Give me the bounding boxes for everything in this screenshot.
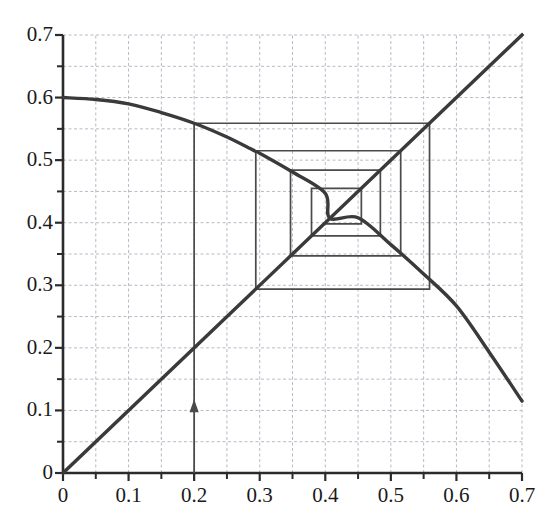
- x-tick-label: 0.2: [177, 485, 211, 506]
- x-tick-label: 0: [46, 485, 80, 506]
- y-tick-label: 0: [9, 462, 53, 483]
- x-tick-label: 0.5: [374, 485, 408, 506]
- start-arrow-icon: [190, 399, 199, 473]
- x-tick-label: 0.4: [308, 485, 342, 506]
- cobweb-path: [194, 123, 429, 410]
- y-tick-label: 0.4: [9, 212, 53, 233]
- y-tick-label: 0.3: [9, 274, 53, 295]
- cobweb-plot: [0, 0, 560, 531]
- x-tick-label: 0.1: [112, 485, 146, 506]
- y-tick-label: 0.6: [9, 87, 53, 108]
- x-tick-label: 0.6: [439, 485, 473, 506]
- y-tick-label: 0.7: [9, 24, 53, 45]
- x-tick-label: 0.7: [505, 485, 539, 506]
- y-tick-label: 0.1: [9, 399, 53, 420]
- cobweb-figure: 00.10.20.30.40.50.60.700.10.20.30.40.50.…: [0, 0, 560, 531]
- x-tick-label: 0.3: [243, 485, 277, 506]
- y-tick-label: 0.2: [9, 337, 53, 358]
- y-tick-label: 0.5: [9, 149, 53, 170]
